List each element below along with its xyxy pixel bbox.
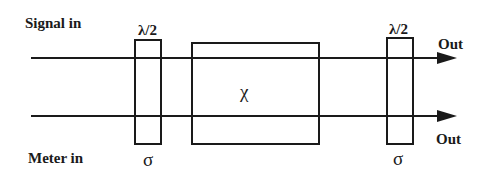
right-half-wave-plate xyxy=(387,38,413,144)
chi-label: χ xyxy=(239,81,249,102)
signal-in-label: Signal in xyxy=(25,15,82,31)
left-plate-sigma-label: σ xyxy=(143,149,153,170)
diagram-canvas: Signal in Meter in Out Out λ/2 λ/2 σ σ χ xyxy=(0,0,495,182)
signal-out-label: Out xyxy=(438,36,463,52)
meter-out-arrow-icon xyxy=(437,110,457,122)
left-half-wave-plate xyxy=(135,40,161,144)
meter-in-label: Meter in xyxy=(28,150,84,166)
right-plate-lambda-label: λ/2 xyxy=(389,21,408,37)
meter-out-label: Out xyxy=(436,131,461,147)
left-plate-lambda-label: λ/2 xyxy=(138,22,157,38)
right-plate-sigma-label: σ xyxy=(393,148,403,169)
signal-out-arrow-icon xyxy=(437,52,457,64)
